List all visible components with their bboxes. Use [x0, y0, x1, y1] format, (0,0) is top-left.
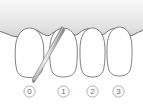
- tooth-label-text-3: 3: [116, 87, 121, 96]
- tooth-label-text-2: 2: [90, 87, 95, 96]
- tooth-crown-1: [50, 28, 78, 77]
- tooth-label-text-1: 1: [61, 87, 66, 96]
- tooth-label-2[interactable]: 2: [87, 86, 98, 97]
- tooth-label-1[interactable]: 1: [58, 86, 69, 97]
- dental-illustration: 0 1 2 3: [0, 0, 143, 106]
- tooth-label-0[interactable]: 0: [24, 86, 35, 97]
- tooth-crown-3: [107, 27, 132, 76]
- dental-diagram-canvas: 0 1 2 3: [0, 0, 143, 106]
- tooth-crown-2: [80, 28, 105, 77]
- tooth-label-text-0: 0: [27, 87, 32, 96]
- tooth-label-3[interactable]: 3: [113, 86, 124, 97]
